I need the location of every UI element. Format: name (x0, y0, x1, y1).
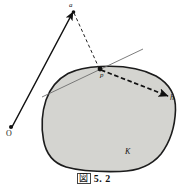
convex-body-region (42, 66, 175, 171)
caption-zu-symbol: 図 (77, 173, 91, 184)
figure-caption: 図5. 2 (0, 172, 188, 186)
geometry-diagram (0, 0, 188, 188)
caption-number: 5. 2 (94, 173, 111, 184)
label-point-p: p (100, 72, 104, 79)
point-marker-a (72, 10, 76, 14)
label-point-a: a (69, 2, 73, 9)
figure-container: a O p h K 図5. 2 (0, 0, 188, 188)
dashed-segment-a-to-p (74, 13, 99, 68)
label-vector-h: h (170, 94, 174, 102)
label-body-k: K (125, 148, 130, 156)
label-point-origin: O (6, 130, 12, 138)
